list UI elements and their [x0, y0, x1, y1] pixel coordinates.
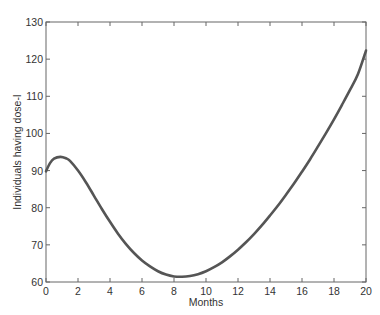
- y-tick-label: 110: [26, 90, 43, 102]
- x-tick-label: 14: [264, 285, 276, 297]
- x-tick-label: 0: [43, 285, 49, 297]
- x-axis-label: Months: [189, 296, 223, 308]
- x-tick-label: 6: [139, 285, 145, 297]
- plot-frame: [46, 22, 366, 282]
- y-tick-label: 60: [31, 276, 43, 288]
- y-tick-label: 90: [31, 165, 43, 177]
- y-tick-label: 100: [25, 127, 43, 139]
- x-tick-label: 18: [328, 285, 340, 297]
- x-tick-label: 20: [360, 285, 372, 297]
- y-tick-label: 130: [25, 16, 43, 28]
- x-tick-label: 4: [107, 285, 113, 297]
- y-axis-label: Individuals having dose-I: [11, 94, 23, 210]
- y-tick-label: 120: [25, 53, 43, 65]
- x-tick-label: 2: [75, 285, 81, 297]
- x-tick-label: 8: [171, 285, 177, 297]
- x-tick-label: 12: [232, 285, 244, 297]
- x-tick-label: 16: [296, 285, 308, 297]
- y-tick-label: 70: [31, 239, 43, 251]
- y-tick-label: 80: [31, 202, 43, 214]
- line-chart: 02468101214161820 60708090100110120130 M…: [0, 0, 380, 315]
